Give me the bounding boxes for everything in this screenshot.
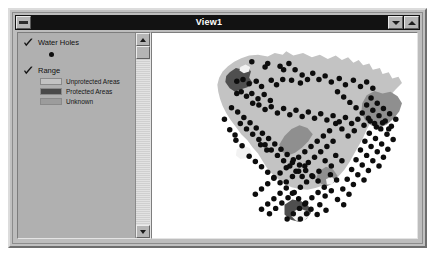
water-hole-point	[299, 114, 304, 119]
water-hole-point	[315, 190, 320, 195]
checkbox-icon[interactable]	[23, 66, 34, 76]
water-hole-point	[327, 128, 332, 133]
water-hole-point	[274, 82, 279, 87]
scroll-up-glyph	[140, 38, 146, 42]
legend-class-unknown[interactable]: Unknown	[23, 97, 132, 106]
point-symbol-glyph	[49, 52, 54, 57]
water-hole-point	[227, 127, 232, 132]
water-hole-point	[314, 212, 319, 217]
water-hole-point	[322, 73, 327, 78]
water-hole-point	[330, 113, 335, 118]
minimize-icon[interactable]	[388, 16, 403, 29]
water-hole-point	[255, 96, 260, 101]
water-hole-point	[370, 86, 375, 91]
water-hole-point	[284, 216, 289, 221]
water-hole-point	[308, 207, 313, 212]
water-hole-point	[265, 201, 270, 206]
legend-layer-water-holes[interactable]: Water Holes	[23, 37, 132, 48]
water-hole-point	[339, 158, 344, 163]
water-hole-point	[375, 149, 380, 154]
water-hole-point	[381, 154, 386, 159]
water-hole-point	[259, 207, 264, 212]
water-hole-point	[302, 149, 307, 154]
water-hole-point	[273, 206, 278, 211]
water-hole-point	[330, 139, 335, 144]
water-hole-point	[292, 67, 297, 72]
water-hole-point	[277, 191, 282, 196]
water-hole-point	[321, 133, 326, 138]
water-hole-point	[267, 211, 272, 216]
water-hole-point	[361, 177, 366, 182]
scrollbar-thumb[interactable]	[136, 46, 150, 59]
legend-class-protected[interactable]: Protected Areas	[23, 87, 132, 96]
window-title: View1	[31, 16, 387, 29]
map-canvas[interactable]	[152, 33, 417, 238]
scroll-up-icon[interactable]	[136, 33, 150, 46]
water-hole-point	[281, 158, 286, 163]
water-hole-point	[384, 131, 389, 136]
water-hole-point	[303, 200, 308, 205]
water-hole-point	[318, 149, 323, 154]
system-menu-icon[interactable]	[16, 16, 31, 29]
water-hole-point	[277, 170, 282, 175]
water-hole-point	[299, 174, 304, 179]
water-hole-point	[262, 107, 267, 112]
water-hole-point	[367, 131, 372, 136]
water-hole-point	[261, 92, 266, 97]
water-hole-point	[269, 78, 274, 83]
water-hole-point	[258, 142, 263, 147]
water-hole-point	[355, 172, 360, 177]
legend-layer-range[interactable]: Range	[23, 65, 132, 76]
water-hole-point	[247, 120, 252, 125]
legend-class-label: Protected Areas	[66, 88, 112, 96]
water-hole-point	[335, 197, 340, 202]
water-hole-point	[284, 185, 289, 190]
water-hole-point	[298, 184, 303, 189]
water-hole-point	[340, 186, 345, 191]
water-hole-point	[244, 126, 249, 131]
water-hole-point	[305, 77, 310, 82]
legend-class-label: Unknown	[66, 98, 93, 106]
checkbox-icon[interactable]	[23, 38, 34, 48]
color-swatch	[40, 88, 62, 95]
water-hole-point	[253, 125, 258, 130]
legend-class-unprotected[interactable]: Unprotected Areas	[23, 77, 132, 86]
water-hole-point	[268, 98, 273, 103]
water-hole-point	[266, 136, 271, 141]
water-hole-point	[298, 216, 303, 221]
maximize-icon[interactable]	[404, 16, 419, 29]
legend-panel[interactable]: Water Holes	[17, 32, 151, 239]
map-view[interactable]	[151, 32, 418, 239]
water-hole-point	[297, 206, 302, 211]
water-hole-point	[387, 111, 392, 116]
window-inner-frame: View1	[12, 12, 423, 244]
water-hole-point	[253, 78, 258, 83]
water-hole-point	[366, 116, 371, 121]
water-hole-point	[265, 181, 270, 186]
water-hole-point	[373, 136, 378, 141]
water-hole-point	[306, 109, 311, 114]
water-hole-point	[287, 112, 292, 117]
water-hole-point	[333, 153, 338, 158]
legend-layer-label: Range	[38, 66, 60, 76]
title-bar[interactable]: View1	[15, 15, 420, 30]
water-hole-point	[264, 147, 269, 152]
water-hole-point	[328, 172, 333, 177]
water-hole-point	[372, 121, 377, 126]
scrollbar-track[interactable]	[136, 46, 150, 225]
water-hole-point	[256, 137, 261, 142]
water-hole-point	[376, 113, 381, 118]
water-hole-point	[381, 106, 386, 111]
water-hole-point	[238, 89, 243, 94]
water-hole-point	[259, 164, 264, 169]
legend-scrollbar[interactable]	[135, 33, 150, 238]
water-hole-point	[304, 179, 309, 184]
water-hole-point	[296, 154, 301, 159]
water-hole-point	[299, 72, 304, 77]
water-hole-point	[285, 195, 290, 200]
color-swatch	[40, 98, 62, 105]
water-hole-point	[289, 78, 294, 83]
water-hole-point	[359, 110, 364, 115]
scroll-down-glyph	[140, 230, 146, 234]
scroll-down-icon[interactable]	[136, 225, 150, 238]
